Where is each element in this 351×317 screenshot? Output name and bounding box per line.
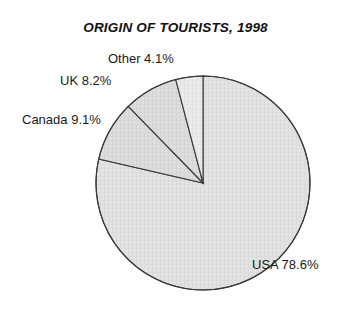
pie-label-other: Other 4.1%	[108, 52, 174, 65]
pie-label-uk: UK 8.2%	[60, 74, 111, 87]
pie-label-canada: Canada 9.1%	[22, 113, 101, 126]
pie-chart-figure: ORIGIN OF TOURISTS, 1998	[0, 0, 351, 317]
pie-label-usa: USA 78.6%	[252, 258, 319, 271]
